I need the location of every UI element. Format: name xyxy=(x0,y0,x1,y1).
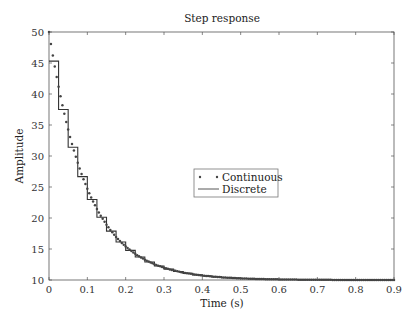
y-tick-label: 30 xyxy=(31,151,44,162)
continuous-series xyxy=(48,31,396,282)
y-axis-label: Amplitude xyxy=(13,129,25,185)
continuous-marker-icon xyxy=(216,176,218,178)
x-tick-label: 0.9 xyxy=(386,284,402,295)
x-tick-label: 0.1 xyxy=(79,284,95,295)
chart-title: Step response xyxy=(184,12,260,24)
legend: Continuous Discrete xyxy=(194,169,283,197)
x-axis: 00.10.20.30.40.50.60.70.80.9 xyxy=(46,32,402,295)
x-tick-label: 0 xyxy=(46,284,52,295)
x-tick-label: 0.5 xyxy=(233,284,249,295)
x-tick-label: 0.7 xyxy=(309,284,325,295)
plot-area xyxy=(48,31,396,282)
y-tick-label: 15 xyxy=(31,244,44,255)
y-tick-label: 35 xyxy=(31,120,44,131)
x-tick-label: 0.4 xyxy=(194,284,210,295)
plot-frame xyxy=(49,32,394,280)
y-tick-label: 50 xyxy=(31,27,44,38)
y-tick-label: 25 xyxy=(31,182,44,193)
x-tick-label: 0.6 xyxy=(271,284,287,295)
legend-label-discrete: Discrete xyxy=(222,183,267,195)
x-axis-label: Time (s) xyxy=(200,297,243,309)
y-tick-label: 45 xyxy=(31,58,44,69)
y-tick-label: 10 xyxy=(31,275,44,286)
x-tick-label: 0.2 xyxy=(118,284,134,295)
y-tick-label: 40 xyxy=(31,89,44,100)
x-tick-label: 0.8 xyxy=(348,284,364,295)
x-tick-label: 0.3 xyxy=(156,284,172,295)
y-axis: 101520253035404550 xyxy=(31,27,394,286)
y-tick-label: 20 xyxy=(31,213,44,224)
legend-label-continuous: Continuous xyxy=(222,171,283,183)
continuous-marker-icon xyxy=(199,176,201,178)
step-response-chart: Step response 00.10.20.30.40.50.60.70.80… xyxy=(0,0,414,324)
